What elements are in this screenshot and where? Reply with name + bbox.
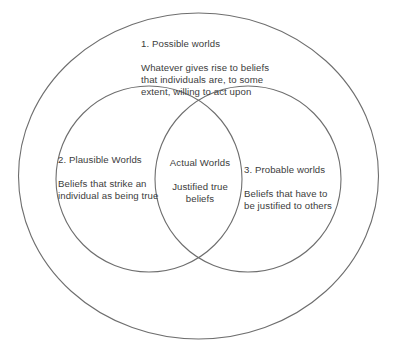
label-possible-worlds-title: 1. Possible worlds (141, 38, 301, 50)
venn-diagram: 1. Possible worlds Whatever gives rise t… (0, 0, 399, 356)
label-actual-worlds: Actual Worlds Justified true beliefs (160, 145, 240, 216)
label-possible-worlds: 1. Possible worlds Whatever gives rise t… (141, 26, 301, 109)
label-possible-worlds-body: Whatever gives rise to beliefs that indi… (141, 62, 301, 98)
label-plausible-worlds: 2. Plausible Worlds Beliefs that strike … (58, 142, 176, 213)
label-actual-worlds-body: Justified true beliefs (160, 181, 240, 205)
label-actual-worlds-title: Actual Worlds (160, 157, 240, 169)
label-plausible-worlds-title: 2. Plausible Worlds (58, 154, 176, 166)
label-probable-worlds-title: 3. Probable worlds (244, 164, 354, 176)
label-probable-worlds-body: Beliefs that have to be justified to oth… (244, 188, 354, 212)
label-probable-worlds: 3. Probable worlds Beliefs that have to … (244, 152, 354, 223)
label-plausible-worlds-body: Beliefs that strike an individual as bei… (58, 178, 176, 202)
